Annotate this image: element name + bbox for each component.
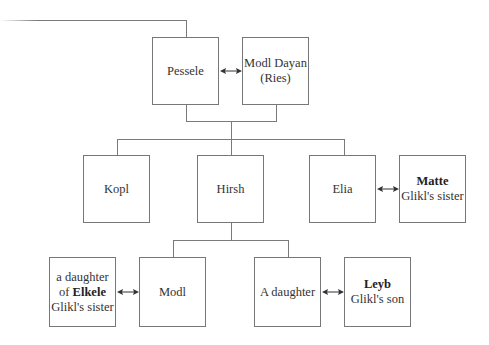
connector-line	[117, 139, 345, 140]
marriage-arrow-icon	[322, 288, 344, 296]
person-name: a daughter	[56, 270, 108, 285]
connector-line	[231, 121, 232, 155]
person-modl-dayan: Modl Dayan (Ries)	[242, 37, 309, 105]
person-matte: Matte Glikl's sister	[399, 155, 466, 223]
person-name-prefix: of	[59, 285, 73, 299]
person-pessele: Pessele	[152, 37, 219, 105]
person-parent-name: Elkele	[73, 285, 106, 299]
connector-line	[231, 223, 232, 241]
connector-line	[117, 139, 118, 155]
person-a-daughter: A daughter	[254, 257, 321, 327]
person-leyb: Leyb Glikl's son	[344, 257, 411, 327]
marriage-arrow-icon	[117, 288, 139, 296]
person-name: Leyb	[364, 277, 391, 292]
person-name: Modl	[159, 285, 186, 300]
connector-line	[173, 240, 174, 257]
person-name: Matte	[417, 174, 449, 189]
person-relation: Glikl's sister	[51, 300, 113, 315]
person-modl: Modl	[139, 257, 206, 327]
person-relation: Glikl's sister	[401, 189, 463, 204]
connector-line	[186, 20, 187, 37]
person-name: Modl Dayan	[244, 56, 307, 71]
connector-line	[186, 105, 187, 122]
person-kopl: Kopl	[83, 155, 150, 223]
connector-line	[276, 105, 277, 122]
marriage-arrow-icon	[377, 185, 399, 193]
person-name: Kopl	[104, 182, 129, 197]
connector-line	[344, 139, 345, 155]
person-name: Pessele	[167, 64, 204, 79]
person-elia: Elia	[309, 155, 376, 223]
parent-connector-line	[0, 20, 187, 21]
person-relation: Glikl's son	[351, 292, 404, 307]
person-name: A daughter	[260, 285, 315, 300]
person-name: Elia	[332, 182, 352, 197]
connector-line	[173, 240, 289, 241]
person-name: Hirsh	[217, 182, 245, 197]
person-note: (Ries)	[260, 71, 291, 86]
marriage-arrow-icon	[220, 67, 242, 75]
person-elkele-daughter: a daughter of Elkele Glikl's sister	[49, 257, 116, 327]
person-hirsh: Hirsh	[197, 155, 264, 223]
connector-line	[288, 240, 289, 257]
